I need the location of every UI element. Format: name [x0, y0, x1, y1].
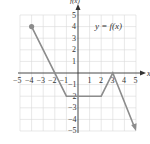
svg-text:3: 3: [72, 34, 76, 43]
function-graph: x f(x) −5 −4 −3 −2 −1 1 2 3 4 5 5 4 3 2 …: [0, 0, 150, 144]
function-annotation: y = f(x): [94, 21, 122, 31]
svg-text:−3: −3: [37, 76, 46, 85]
svg-text:1: 1: [72, 57, 76, 66]
x-axis-label: x: [146, 69, 150, 78]
closed-endpoint-dot: [29, 24, 34, 29]
svg-text:−5: −5: [13, 76, 22, 85]
svg-text:−1: −1: [68, 80, 77, 89]
svg-text:2: 2: [99, 76, 103, 85]
svg-text:5: 5: [134, 76, 138, 85]
svg-text:−5: −5: [68, 126, 77, 135]
svg-text:−4: −4: [25, 76, 34, 85]
curve-end-arrow-icon: [131, 123, 136, 131]
svg-text:4: 4: [72, 22, 76, 31]
x-axis-arrow-icon: [140, 71, 146, 76]
svg-text:−3: −3: [68, 103, 77, 112]
y-axis-label: f(x): [70, 0, 80, 5]
svg-text:−2: −2: [48, 76, 57, 85]
svg-text:1: 1: [88, 76, 92, 85]
svg-text:4: 4: [122, 76, 126, 85]
svg-text:5: 5: [72, 11, 76, 20]
svg-text:2: 2: [72, 45, 76, 54]
svg-text:−4: −4: [68, 115, 77, 124]
